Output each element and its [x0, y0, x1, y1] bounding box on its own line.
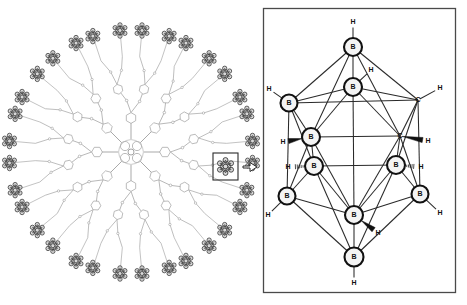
cluster-center: [74, 41, 78, 45]
linker-atom: [159, 193, 162, 196]
cluster-center: [51, 244, 55, 248]
linker-atom: [120, 69, 122, 71]
cluster-center: [238, 205, 242, 209]
linker-atom: [139, 233, 141, 235]
atom-label: B: [350, 43, 355, 50]
cluster-center: [207, 244, 211, 248]
cluster-center: [7, 161, 11, 165]
linker-atom: [143, 69, 145, 71]
hydrogen-label: H: [266, 85, 271, 92]
linker-atom: [134, 202, 137, 205]
aryl-ring: [160, 147, 171, 156]
cluster-center: [167, 34, 171, 38]
hydrogen-label: H: [351, 279, 356, 286]
cluster-center: [238, 95, 242, 99]
cluster-center: [13, 112, 17, 116]
cluster-center: [184, 41, 188, 45]
linker-atom: [110, 71, 112, 73]
linker-atom: [50, 171, 52, 173]
aryl-ring: [126, 113, 135, 124]
linker-atom: [172, 80, 174, 82]
carborane-structure-panel: BBBCBCBBBBBB HHHHHHHHHHHH: [264, 9, 456, 293]
scientific-figure: BBBCBCBBBBBB HHHHHHHHHHHH: [0, 0, 467, 305]
cluster-center: [167, 266, 171, 270]
linker-atom: [106, 230, 108, 232]
aryl-ring: [91, 201, 101, 210]
linker-atom: [210, 131, 212, 133]
cluster-center: [74, 259, 78, 263]
linker-atom: [51, 127, 53, 129]
linker-atom: [81, 84, 83, 86]
linker-atom: [79, 142, 82, 145]
cluster-center: [184, 259, 188, 263]
linker-atom: [163, 111, 166, 114]
linker-atom: [194, 202, 196, 204]
linker-atom: [212, 141, 214, 143]
hydrogen-label: H: [285, 163, 290, 170]
linker-atom: [209, 175, 211, 177]
atom-label: B: [350, 83, 355, 90]
linker-atom: [138, 100, 141, 103]
atom-label: B: [284, 192, 289, 199]
cluster-center: [223, 164, 228, 169]
linker-atom: [91, 78, 93, 80]
linker-atom: [88, 180, 91, 183]
atom-label: B: [311, 162, 316, 169]
linker-atom: [154, 72, 156, 74]
atom-label: C: [397, 132, 402, 139]
hydrogen-label: H: [425, 137, 430, 144]
cluster-center: [223, 228, 227, 232]
aryl-ring: [180, 112, 189, 122]
cluster-center: [91, 266, 95, 270]
linker-atom: [172, 121, 175, 124]
cluster-center: [251, 139, 255, 143]
aryl-ring: [126, 181, 135, 192]
linker-atom: [57, 190, 59, 192]
linker-atom: [169, 223, 171, 225]
cluster-center: [20, 95, 24, 99]
atom-label: C: [415, 96, 420, 103]
cluster-center: [7, 139, 11, 143]
aryl-ring: [73, 182, 82, 192]
cluster-center: [118, 272, 122, 276]
linker-atom: [100, 109, 103, 112]
cluster-center: [35, 228, 39, 232]
linker-atom: [90, 117, 93, 120]
aryl-ring: [180, 182, 189, 192]
aryl-ring: [91, 94, 101, 103]
atom-label: B: [351, 211, 356, 218]
linker-atom: [202, 112, 204, 114]
linker-atom: [63, 199, 65, 201]
cluster-center: [91, 34, 95, 38]
linker-atom: [169, 184, 172, 187]
linker-atom: [197, 102, 199, 104]
linker-atom: [59, 109, 61, 111]
linker-atom: [201, 193, 203, 195]
linker-atom: [96, 190, 99, 193]
aryl-ring: [92, 147, 103, 156]
aryl-ring: [161, 94, 171, 103]
cluster-center: [223, 72, 227, 76]
linker-atom: [79, 215, 81, 217]
atom-label: B: [417, 190, 422, 197]
hydrogen-label: H: [437, 84, 442, 91]
atom-label: B: [308, 133, 313, 140]
hydrogen-label: H: [368, 66, 373, 73]
linker-atom: [78, 155, 81, 158]
hydrogen-label: H: [350, 18, 355, 25]
hydrogen-label: H: [265, 211, 270, 218]
cluster-center: [20, 205, 24, 209]
linker-atom: [125, 99, 128, 102]
cluster-center: [13, 188, 17, 192]
hydrogen-label: H: [375, 229, 380, 236]
linker-atom: [48, 138, 50, 140]
cluster-center: [245, 188, 249, 192]
linker-atom: [150, 231, 152, 233]
linker-atom: [88, 222, 90, 224]
cluster-center: [207, 56, 211, 60]
hydrogen-label: H: [418, 163, 423, 170]
linker-atom: [180, 159, 183, 162]
linker-atom: [178, 218, 180, 220]
atom-label: B: [393, 161, 398, 168]
aryl-ring: [73, 112, 82, 122]
